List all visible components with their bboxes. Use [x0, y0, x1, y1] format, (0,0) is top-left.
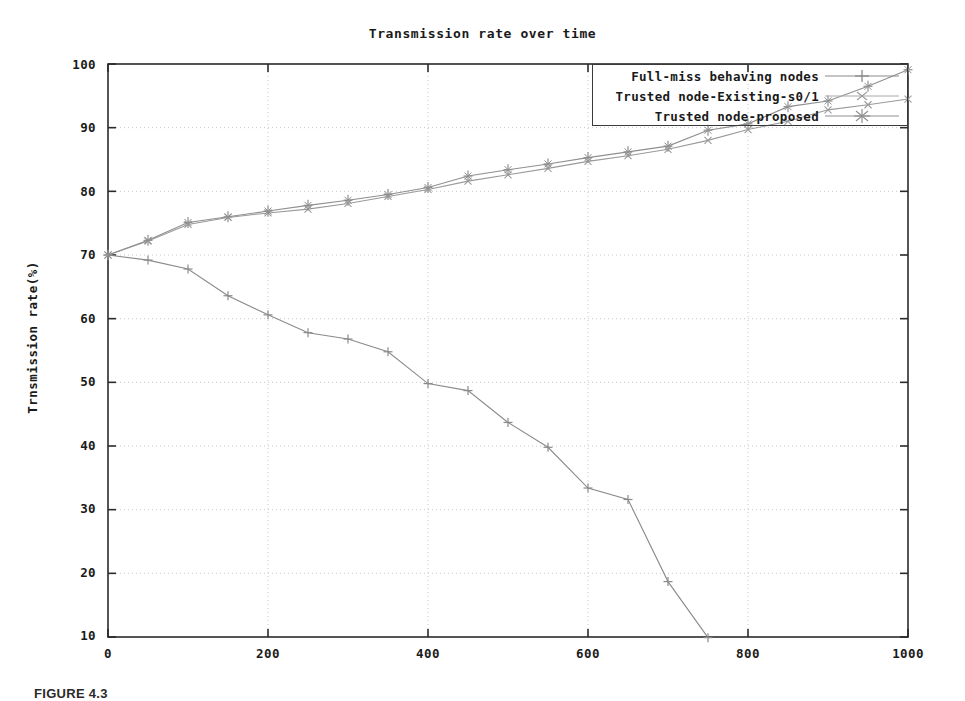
legend-sample-star-icon — [823, 109, 901, 123]
legend-label: Trusted node-Existing-s0/1 — [616, 89, 823, 104]
legend: Full-miss behaving nodes Trusted node-Ex… — [592, 64, 908, 126]
legend-label: Full-miss behaving nodes — [631, 69, 823, 84]
figure-caption: FIGURE 4.3 — [34, 686, 108, 701]
legend-entry-full-miss: Full-miss behaving nodes — [631, 66, 901, 86]
legend-label: Trusted node-proposed — [655, 109, 823, 124]
legend-sample-plus-icon — [823, 69, 901, 83]
legend-entry-existing: Trusted node-Existing-s0/1 — [616, 86, 901, 106]
legend-sample-x-icon — [823, 89, 901, 103]
legend-entry-proposed: Trusted node-proposed — [655, 106, 901, 126]
figure-container: Transmission rate over time Trnsmission … — [0, 0, 965, 701]
plot-frame — [108, 64, 908, 637]
